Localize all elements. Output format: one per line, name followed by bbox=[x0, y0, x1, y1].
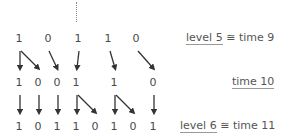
arrow-down bbox=[77, 51, 79, 68]
arrow-diagonal bbox=[78, 95, 95, 112]
arrows-layer bbox=[0, 0, 288, 137]
arrow-diagonal bbox=[49, 51, 57, 68]
arrow-diagonal bbox=[138, 51, 153, 68]
arrow-diagonal bbox=[116, 95, 133, 112]
arrow-diagonal bbox=[21, 51, 38, 68]
arrow-diagonal bbox=[110, 51, 115, 68]
